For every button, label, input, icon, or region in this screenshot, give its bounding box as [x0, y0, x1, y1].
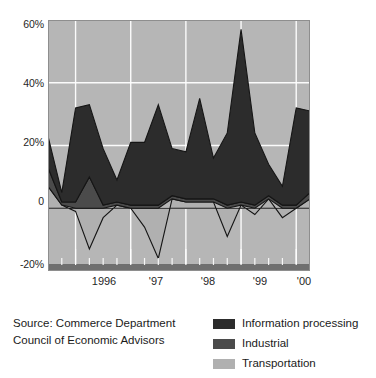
- x-tick-label-99: '99: [253, 275, 267, 288]
- x-tick-label-00: '00: [297, 275, 311, 288]
- source-line-2: Council of Economic Advisors: [13, 332, 213, 349]
- legend-swatch-information-processing: [213, 319, 235, 329]
- plot-svg: [48, 20, 310, 271]
- y-axis-labels: 60% 40% 20% 0 -20%: [0, 0, 44, 300]
- legend-item-information-processing: Information processing: [213, 314, 376, 333]
- legend-label-information-processing: Information processing: [242, 317, 358, 330]
- figure-container: 60% 40% 20% 0 -20% 1996 '97 '98 '99 '00 …: [0, 0, 376, 378]
- y-tick-label-neg20: -20%: [0, 259, 44, 270]
- legend-swatch-industrial: [213, 339, 235, 349]
- plot-area: [48, 20, 310, 271]
- chart-legend: Information processing Industrial Transp…: [213, 314, 376, 374]
- stacked-area-chart: 60% 40% 20% 0 -20% 1996 '97 '98 '99 '00: [0, 0, 376, 300]
- legend-item-industrial: Industrial: [213, 334, 376, 353]
- y-tick-label-60: 60%: [0, 19, 44, 30]
- x-tick-label-1996: 1996: [92, 275, 116, 288]
- legend-label-industrial: Industrial: [242, 337, 289, 350]
- x-axis-labels: 1996 '97 '98 '99 '00: [48, 275, 310, 295]
- source-note: Source: Commerce Department Council of E…: [13, 315, 213, 348]
- x-tick-label-97: '97: [149, 275, 163, 288]
- y-tick-label-0: 0: [0, 196, 44, 207]
- legend-swatch-transportation: [213, 359, 235, 369]
- y-tick-label-40: 40%: [0, 78, 44, 89]
- source-line-1: Source: Commerce Department: [13, 315, 213, 332]
- legend-item-transportation: Transportation: [213, 354, 376, 373]
- y-tick-label-20: 20%: [0, 137, 44, 148]
- x-tick-label-98: '98: [201, 275, 215, 288]
- chart-footer: Source: Commerce Department Council of E…: [0, 305, 376, 378]
- legend-label-transportation: Transportation: [242, 357, 316, 370]
